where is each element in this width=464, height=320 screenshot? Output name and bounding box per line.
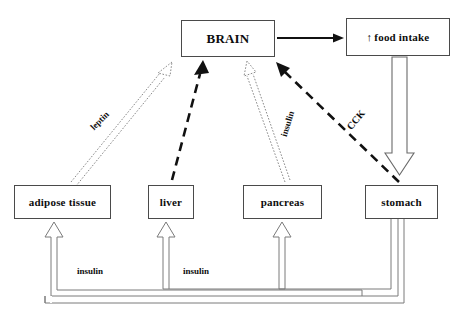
node-pancreas-label: pancreas [261, 197, 305, 208]
edge-adipose-to-brain-leptin [71, 62, 172, 186]
diagram-canvas: BRAIN ↑ food intake adipose tissue liver… [0, 0, 464, 320]
node-food-intake-label: food intake [374, 32, 429, 43]
node-brain[interactable]: BRAIN [181, 20, 275, 57]
node-stomach-label: stomach [381, 197, 422, 208]
edge-label-insulin-adipose: insulin [77, 267, 103, 276]
edge-brain-to-food-intake [277, 34, 344, 43]
up-arrow-icon: ↑ [367, 32, 373, 43]
edge-label-insulin-liver: insulin [183, 267, 209, 276]
node-adipose-tissue-label: adipose tissue [29, 197, 96, 208]
node-liver-label: liver [160, 197, 182, 208]
edge-stomach-to-brain-cck [276, 62, 399, 182]
node-brain-label: BRAIN [207, 32, 250, 45]
node-pancreas[interactable]: pancreas [243, 185, 322, 219]
edge-pancreas-to-adipose-insulin [45, 222, 362, 296]
node-food-intake[interactable]: ↑ food intake [346, 18, 450, 56]
edge-liver-to-brain [172, 60, 209, 180]
node-stomach[interactable]: stomach [365, 185, 438, 219]
node-adipose-tissue[interactable]: adipose tissue [14, 185, 111, 219]
node-liver[interactable]: liver [148, 185, 194, 219]
edge-food-intake-to-stomach [385, 57, 414, 175]
edge-pancreas-to-liver-insulin [157, 222, 175, 289]
edge-stomach-to-pancreas [273, 222, 291, 289]
